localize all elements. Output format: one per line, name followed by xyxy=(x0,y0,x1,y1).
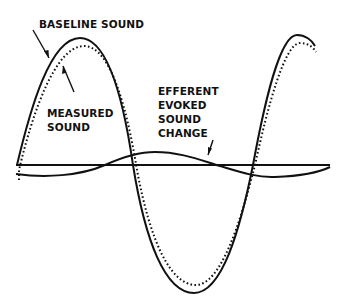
efferent-label-line4: CHANGE xyxy=(158,126,208,140)
baseline-sound-pointer xyxy=(33,30,49,58)
baseline-sound-curve xyxy=(17,35,315,293)
measured-sound-label-line1: MEASURED xyxy=(47,106,114,120)
efferent-change-pointer xyxy=(208,140,213,155)
measured-sound-label-line2: SOUND xyxy=(47,120,90,134)
baseline-sound-label: BASELINE SOUND xyxy=(39,17,144,31)
efferent-label-line1: EFFERENT xyxy=(158,84,219,98)
measured-sound-pointer xyxy=(62,66,74,92)
efferent-label-line3: SOUND xyxy=(158,112,201,126)
waveform-diagram: BASELINE SOUND MEASURED SOUND EFFERENT E… xyxy=(0,0,344,308)
waveform-plot xyxy=(0,0,344,308)
efferent-label-line2: EVOKED xyxy=(158,98,207,112)
